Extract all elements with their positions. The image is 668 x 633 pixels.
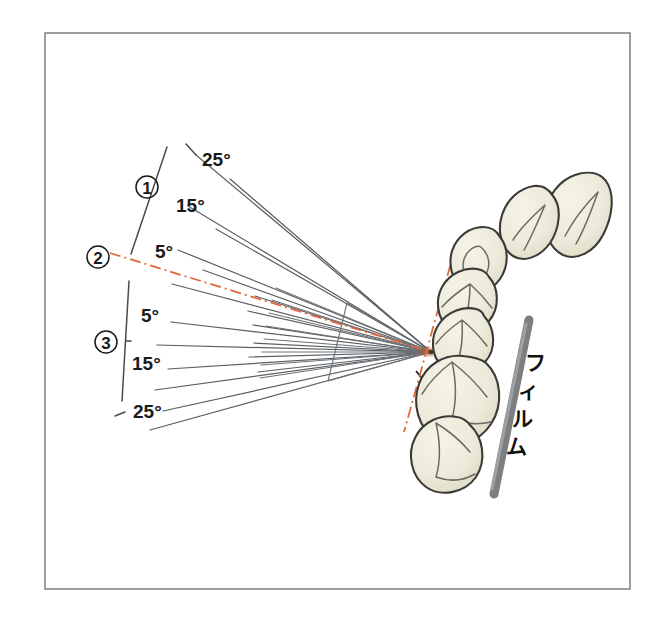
tooth-7 [411, 416, 482, 492]
film-label-char-3: ル [512, 407, 533, 431]
film-label-char-2: ィ [518, 379, 539, 403]
angle-label-upper-5: 5° [155, 241, 173, 262]
angle-label-lower-15: 15° [132, 353, 161, 374]
group-marker-2-label: 2 [93, 249, 102, 268]
angle-label-upper-25: 25° [202, 149, 231, 170]
diagram-canvas: 25° 15° 5° 5° 15° 25° 1 2 3 フ ィ ル ム [0, 0, 668, 633]
film-label-char-4: ム [506, 435, 527, 459]
figure-frame [45, 33, 630, 589]
film-label-char-1: フ [525, 351, 546, 375]
group-marker-1-label: 1 [142, 179, 151, 198]
figure-root: 25° 15° 5° 5° 15° 25° 1 2 3 フ ィ ル ム [0, 0, 668, 633]
angle-label-lower-25: 25° [133, 401, 162, 422]
angle-label-lower-5: 5° [141, 305, 159, 326]
angle-label-upper-15: 15° [176, 195, 205, 216]
group-marker-3-label: 3 [101, 334, 110, 353]
